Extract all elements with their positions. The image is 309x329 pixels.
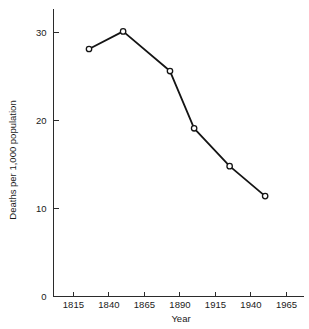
data-point-marker — [191, 126, 196, 131]
x-axis-title: Year — [171, 313, 190, 324]
y-axis-tick-label: 0 — [41, 291, 46, 302]
data-point-marker — [120, 29, 125, 34]
y-axis-tick-label: 30 — [36, 27, 47, 38]
y-axis-tick-labels: 0102030 — [36, 27, 47, 302]
data-point-marker — [262, 193, 267, 198]
x-axis-tick-label: 1915 — [205, 299, 226, 310]
x-axis-tick-label: 1890 — [169, 299, 190, 310]
x-axis-tick-label: 1965 — [276, 299, 297, 310]
y-axis-tick-label: 20 — [36, 115, 47, 126]
y-axis-tick-label: 10 — [36, 203, 47, 214]
x-axis-tick-labels: 1815184018651890191519401965 — [63, 299, 297, 310]
data-point-marker — [167, 68, 172, 73]
x-axis-tick-label: 1815 — [63, 299, 84, 310]
series-line-deaths — [89, 31, 265, 196]
line-chart: 0102030 1815184018651890191519401965 Yea… — [0, 0, 309, 329]
y-axis-title: Deaths per 1,000 population — [7, 100, 18, 219]
series-markers — [86, 29, 268, 199]
x-axis-tick-label: 1940 — [240, 299, 261, 310]
y-axis-ticks — [54, 32, 59, 208]
chart-figure: 0102030 1815184018651890191519401965 Yea… — [0, 0, 309, 329]
data-point-marker — [86, 46, 91, 51]
x-axis-ticks — [73, 292, 286, 297]
data-point-marker — [227, 163, 232, 168]
x-axis-tick-label: 1865 — [134, 299, 155, 310]
data-series — [86, 29, 268, 199]
x-axis-tick-label: 1840 — [98, 299, 119, 310]
